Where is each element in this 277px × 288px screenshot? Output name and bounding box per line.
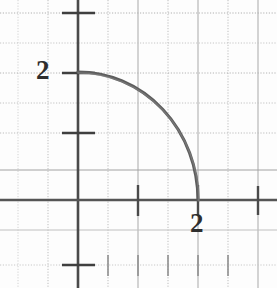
graph-figure: 2 2 [0,0,277,288]
graph-canvas [0,0,277,288]
y-axis-label-2: 2 [36,57,50,84]
x-axis-label-2: 2 [190,210,204,237]
